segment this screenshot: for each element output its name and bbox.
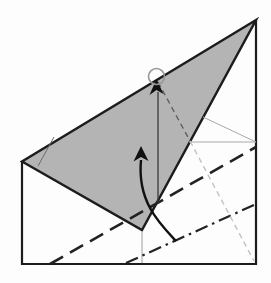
xray-dashed-line-off-flap: [190, 141, 254, 261]
origami-diagram-page: [0, 0, 271, 283]
diagonal-crease: [203, 117, 256, 142]
origami-step-diagram: [0, 0, 271, 283]
